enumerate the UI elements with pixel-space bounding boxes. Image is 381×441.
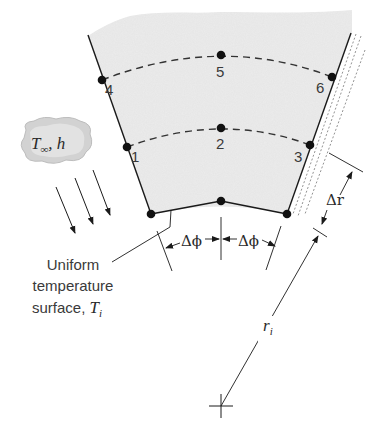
- convection-arrows: [56, 170, 110, 233]
- diagram-canvas: 4 5 6 1 2 3 T∞, h Δϕ Δϕ Δr: [0, 0, 381, 441]
- delta-r-label: Δr: [326, 191, 345, 209]
- convection-arrow-icon: [56, 187, 75, 233]
- node-label-2: 2: [216, 135, 224, 152]
- node-inner-center: [217, 197, 226, 206]
- delta-phi-dimension: [157, 217, 281, 271]
- node-6: [328, 73, 337, 82]
- caption-line-1: Uniform: [47, 256, 100, 273]
- convection-arrow-icon: [75, 178, 93, 224]
- node-2: [217, 124, 226, 133]
- delta-phi-label-left: Δϕ: [181, 232, 202, 250]
- node-label-5: 5: [216, 63, 224, 80]
- convection-arrow-icon: [93, 170, 110, 215]
- node-3: [306, 141, 315, 150]
- fluid-label: T∞, h: [31, 134, 65, 155]
- caption-leader-line: [112, 210, 171, 262]
- caption-line-3: surface, Ti: [32, 298, 102, 319]
- nodal-network-diagram: 4 5 6 1 2 3 T∞, h Δϕ Δϕ Δr: [0, 0, 381, 441]
- caption-line-2: temperature: [33, 277, 114, 294]
- node-inner-right: [283, 210, 292, 219]
- solid-medium: [88, 10, 352, 214]
- center-point-cross: [209, 394, 233, 418]
- node-1: [123, 143, 132, 152]
- node-label-6: 6: [316, 79, 324, 96]
- node-5: [217, 51, 226, 60]
- node-label-3: 3: [294, 148, 302, 165]
- node-label-4: 4: [105, 81, 113, 98]
- delta-phi-label-right: Δϕ: [238, 232, 259, 250]
- node-inner-left: [147, 210, 156, 219]
- fluid-cloud-icon: T∞, h: [21, 117, 92, 163]
- node-label-1: 1: [131, 148, 139, 165]
